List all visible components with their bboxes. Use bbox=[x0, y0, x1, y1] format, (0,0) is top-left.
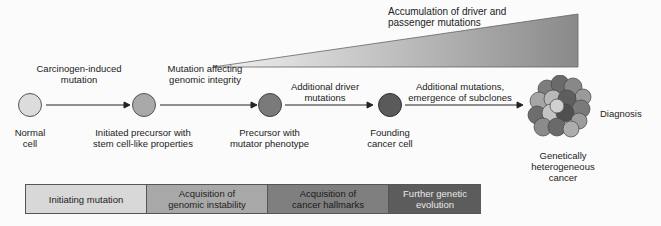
cell-label-line1: Precursor with bbox=[222, 127, 317, 138]
heterogeneous-tumor-cluster bbox=[527, 75, 597, 140]
arrow-label-line1: Mutation affecting bbox=[150, 63, 260, 74]
stage-initiating-mutation: Initiating mutation bbox=[26, 185, 147, 213]
stage-line2: cancer hallmarks bbox=[292, 199, 364, 210]
cell-label-line1: Initiated precursor with bbox=[83, 127, 203, 138]
stage-line1: Initiating mutation bbox=[49, 194, 123, 205]
cell-label-mutator: Precursor with mutator phenotype bbox=[222, 127, 317, 149]
cell-normal bbox=[18, 93, 42, 117]
stage-bar: Initiating mutation Acquisition ofgenomi… bbox=[25, 184, 481, 214]
arrow-label-carcinogen: Carcinogen-induced mutation bbox=[14, 63, 144, 85]
arrow-label-line1: Carcinogen-induced bbox=[14, 63, 144, 74]
arrow-label-subclones: Additional mutations, emergence of subcl… bbox=[400, 81, 520, 103]
arrow-label-line1: Additional mutations, bbox=[400, 81, 520, 92]
tumor-label: Genetically heterogeneous cancer bbox=[527, 150, 599, 183]
arrow-label-line2: mutations bbox=[275, 92, 375, 103]
cell-label-line2: cell bbox=[0, 138, 60, 149]
arrow-label-line2: genomic integrity bbox=[150, 74, 260, 85]
tumor-label-line2: heterogeneous bbox=[527, 161, 599, 172]
stage-line2: genomic instability bbox=[168, 199, 246, 210]
stage-line1: Acquisition of bbox=[292, 188, 364, 199]
cell-label-normal: Normal cell bbox=[0, 127, 60, 149]
stage-cancer-hallmarks: Acquisition ofcancer hallmarks bbox=[268, 185, 389, 213]
wedge-label-line2: passenger mutations bbox=[388, 17, 506, 28]
diagnosis-label: Diagnosis bbox=[600, 108, 642, 119]
cell-label-founding: Founding cancer cell bbox=[355, 127, 425, 149]
cell-label-line2: cancer cell bbox=[355, 138, 425, 149]
arrow-label-genomic-integrity: Mutation affecting genomic integrity bbox=[150, 63, 260, 85]
stage-genomic-instability: Acquisition ofgenomic instability bbox=[147, 185, 268, 213]
stage-line1: Further genetic bbox=[403, 188, 467, 199]
wedge-label-line1: Accumulation of driver and bbox=[388, 6, 506, 17]
stage-line2: evolution bbox=[403, 199, 467, 210]
tumor-label-line1: Genetically bbox=[527, 150, 599, 161]
arrow-label-line1: Additional driver bbox=[275, 81, 375, 92]
cell-label-line2: stem cell-like properties bbox=[83, 138, 203, 149]
cell-label-line1: Founding bbox=[355, 127, 425, 138]
stage-further-evolution: Further geneticevolution bbox=[389, 185, 481, 213]
arrow-label-additional-driver: Additional driver mutations bbox=[275, 81, 375, 103]
cell-label-line2: mutator phenotype bbox=[222, 138, 317, 149]
arrow-label-line2: mutation bbox=[14, 74, 144, 85]
cell-founding-cancer bbox=[378, 93, 402, 117]
stage-line1: Acquisition of bbox=[168, 188, 246, 199]
wedge-label: Accumulation of driver and passenger mut… bbox=[388, 6, 506, 28]
tumor-label-line3: cancer bbox=[527, 172, 599, 183]
arrow-label-line2: emergence of subclones bbox=[400, 92, 520, 103]
cell-initiated-precursor bbox=[132, 93, 156, 117]
cell-label-line1: Normal bbox=[0, 127, 60, 138]
cell-label-initiated: Initiated precursor with stem cell-like … bbox=[83, 127, 203, 149]
